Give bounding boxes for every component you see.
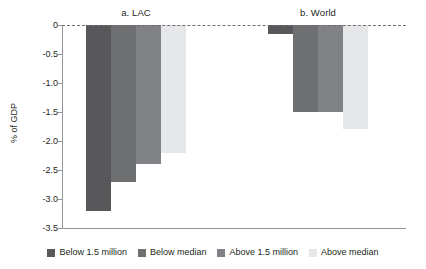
chart-legend: Below 1.5 millionBelow medianAbove 1.5 m… bbox=[0, 248, 426, 257]
legend-swatch-icon bbox=[309, 249, 317, 257]
bar-panel-a-1 bbox=[86, 25, 111, 211]
bar-panel-a-4 bbox=[161, 25, 186, 153]
y-axis-tick-label: -0.5 bbox=[24, 49, 58, 59]
legend-item[interactable]: Below median bbox=[138, 248, 207, 257]
y-axis-tick-mark bbox=[58, 83, 62, 84]
y-axis-tick-label: -2.5 bbox=[24, 165, 58, 175]
y-axis-tick-mark bbox=[58, 170, 62, 171]
bar-panel-a-2 bbox=[111, 25, 136, 182]
legend-item-label: Above median bbox=[321, 248, 379, 257]
panel-title-b: b. World bbox=[268, 7, 368, 18]
y-axis-tick: -1.0 bbox=[20, 83, 58, 84]
y-axis-tick-label: -2.0 bbox=[24, 136, 58, 146]
legend-swatch-icon bbox=[217, 249, 225, 257]
bar-panel-b-4 bbox=[343, 25, 368, 129]
y-axis-tick-mark bbox=[58, 112, 62, 113]
y-axis-tick: -3.5 bbox=[20, 228, 58, 229]
legend-item-label: Above 1.5 million bbox=[229, 248, 298, 257]
y-axis-tick: -2.5 bbox=[20, 170, 58, 171]
legend-swatch-icon bbox=[138, 249, 146, 257]
zero-reference-line bbox=[62, 25, 406, 26]
y-axis-tick-mark bbox=[58, 141, 62, 142]
legend-item-label: Below median bbox=[150, 248, 207, 257]
legend-item-label: Below 1.5 million bbox=[59, 248, 127, 257]
y-axis-tick-mark bbox=[58, 228, 62, 229]
y-axis-tick-mark bbox=[58, 199, 62, 200]
chart-figure: a. LAC b. World % of GDP 0-0.5-1.0-1.5-2… bbox=[0, 0, 426, 269]
bar-panel-b-2 bbox=[293, 25, 318, 112]
y-axis-tick-label: -1.5 bbox=[24, 107, 58, 117]
y-axis-tick: -2.0 bbox=[20, 141, 58, 142]
panel-title-a: a. LAC bbox=[86, 7, 186, 18]
y-axis-tick-label: -3.5 bbox=[24, 223, 58, 233]
bar-panel-a-3 bbox=[136, 25, 161, 164]
y-axis-line bbox=[62, 25, 63, 228]
y-axis-tick-label: 0 bbox=[24, 20, 58, 30]
bar-panel-b-1 bbox=[268, 25, 293, 34]
legend-item[interactable]: Above median bbox=[309, 248, 379, 257]
legend-item[interactable]: Below 1.5 million bbox=[47, 248, 127, 257]
y-axis-title: % of GDP bbox=[9, 83, 19, 163]
y-axis-tick-label: -1.0 bbox=[24, 78, 58, 88]
y-axis-tick: -3.0 bbox=[20, 199, 58, 200]
legend-swatch-icon bbox=[47, 249, 55, 257]
y-axis-tick-label: -3.0 bbox=[24, 194, 58, 204]
y-axis-tick: -1.5 bbox=[20, 112, 58, 113]
legend-item[interactable]: Above 1.5 million bbox=[217, 248, 298, 257]
bar-panel-b-3 bbox=[318, 25, 343, 112]
y-axis-tick: -0.5 bbox=[20, 54, 58, 55]
y-axis-tick: 0 bbox=[20, 25, 58, 26]
x-axis-baseline bbox=[62, 228, 406, 229]
y-axis-tick-mark bbox=[58, 54, 62, 55]
